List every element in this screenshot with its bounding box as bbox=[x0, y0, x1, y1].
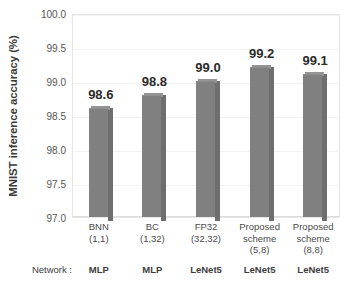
category-line-1: Proposed bbox=[293, 221, 334, 232]
y-axis-tick-labels: 100.099.599.098.598.097.597.0 bbox=[26, 14, 70, 218]
bar[interactable] bbox=[142, 95, 161, 217]
y-axis-tick: 97.0 bbox=[47, 213, 66, 224]
bar-slot: 99.1 bbox=[303, 15, 327, 217]
y-axis-title-text: MNIST inference accuracy (%) bbox=[7, 35, 19, 196]
category-line-2: (32,32) bbox=[178, 233, 234, 245]
bar-depth-side bbox=[215, 81, 220, 221]
bar[interactable] bbox=[303, 74, 322, 217]
category-line-3: (5,8) bbox=[232, 244, 288, 256]
network-value: LeNet5 bbox=[285, 264, 341, 275]
category-line-3: (8,8) bbox=[285, 244, 341, 256]
plot-area: 98.698.899.099.299.1 bbox=[72, 14, 340, 218]
category-line-2: (1,32) bbox=[124, 233, 180, 245]
y-axis-tick: 98.0 bbox=[47, 145, 66, 156]
bar-value-label: 99.1 bbox=[293, 53, 337, 68]
bar-slot: 99.2 bbox=[250, 15, 274, 217]
bar-value-label: 98.8 bbox=[132, 74, 176, 89]
y-axis-title: MNIST inference accuracy (%) bbox=[0, 0, 26, 232]
bar[interactable] bbox=[196, 81, 215, 217]
bar-slot: 99.0 bbox=[196, 15, 220, 217]
x-axis-category-labels: BNN(1,1)BC(1,32)FP32(32,32)Proposedschem… bbox=[72, 221, 340, 267]
bar-depth-side bbox=[161, 95, 166, 221]
bar-slot: 98.6 bbox=[89, 15, 113, 217]
category-line-2: (1,1) bbox=[71, 233, 127, 245]
bar-slot: 98.8 bbox=[142, 15, 166, 217]
network-value: LeNet5 bbox=[232, 264, 288, 275]
bar[interactable] bbox=[89, 108, 108, 217]
bar[interactable] bbox=[250, 67, 269, 217]
x-axis-category: Proposedscheme(5,8) bbox=[232, 221, 288, 256]
x-axis-category: BNN(1,1) bbox=[71, 221, 127, 244]
network-row: Network : MLPMLPLeNet5LeNet5LeNet5 bbox=[0, 264, 359, 284]
bar-value-label: 99.2 bbox=[240, 46, 284, 61]
y-axis-tick: 100.0 bbox=[41, 9, 66, 20]
y-axis-tick: 97.5 bbox=[47, 179, 66, 190]
category-line-1: BNN bbox=[89, 221, 109, 232]
bar-series: 98.698.899.099.299.1 bbox=[73, 15, 339, 217]
network-value: MLP bbox=[124, 264, 180, 275]
bar-depth-side bbox=[108, 108, 113, 221]
category-line-2: scheme bbox=[232, 233, 288, 245]
bar-chart-figure: MNIST inference accuracy (%) 100.099.599… bbox=[0, 0, 359, 296]
x-axis-category: FP32(32,32) bbox=[178, 221, 234, 244]
bar-depth-side bbox=[322, 74, 327, 221]
y-axis-tick: 99.0 bbox=[47, 77, 66, 88]
bar-depth-side bbox=[269, 67, 274, 221]
x-axis-category: Proposedscheme(8,8) bbox=[285, 221, 341, 256]
network-value: MLP bbox=[71, 264, 127, 275]
bar-value-label: 98.6 bbox=[79, 87, 123, 102]
y-axis-tick: 98.5 bbox=[47, 111, 66, 122]
network-row-label: Network : bbox=[14, 264, 72, 275]
category-line-1: Proposed bbox=[239, 221, 280, 232]
x-axis-category: BC(1,32) bbox=[124, 221, 180, 244]
bar-value-label: 99.0 bbox=[186, 60, 230, 75]
category-line-1: BC bbox=[146, 221, 159, 232]
category-line-1: FP32 bbox=[195, 221, 218, 232]
category-line-2: scheme bbox=[285, 233, 341, 245]
network-value: LeNet5 bbox=[178, 264, 234, 275]
y-axis-tick: 99.5 bbox=[47, 43, 66, 54]
